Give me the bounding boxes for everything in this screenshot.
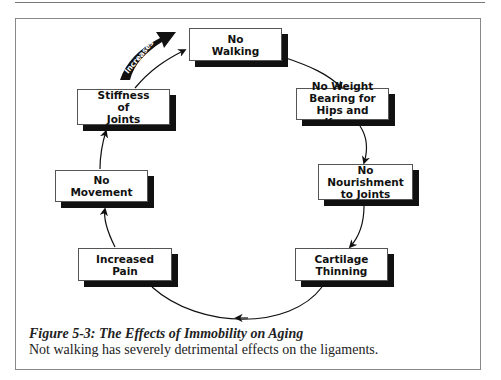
node-label: Stiffness of Joints [77,89,170,125]
node-no-walking: No Walking [189,28,282,61]
figure-caption: Figure 5-3: The Effects of Immobility on… [29,326,378,358]
node-cartilage-thinning: Cartilage Thinning [295,248,388,281]
node-stiffness-of-joints: Stiffness of Joints [77,89,170,125]
caption-description: Not walking has severely detrimental eff… [29,342,378,358]
increases-label: Increases [123,38,156,75]
node-no-weight-bearing: No Weight Bearing for Hips and Knees [296,88,389,120]
node-no-movement: No Movement [55,170,148,202]
node-no-nourishment: No Nourishment to Joints [318,164,413,200]
node-label: Increased Pain [78,248,172,281]
node-label: No Weight Bearing for Hips and Knees [296,88,389,120]
node-label: No Walking [189,28,282,61]
node-label: No Nourishment to Joints [318,164,413,200]
node-increased-pain: Increased Pain [78,248,172,281]
caption-title: Figure 5-3: The Effects of Immobility on… [29,326,378,342]
node-label: Cartilage Thinning [295,248,388,281]
node-label: No Movement [55,170,148,202]
